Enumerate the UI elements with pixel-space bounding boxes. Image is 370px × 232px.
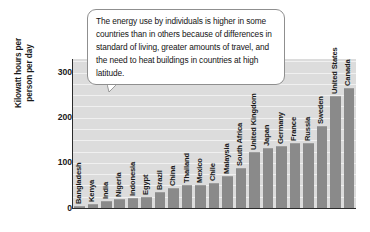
bar-slot: United States: [329, 59, 342, 208]
bar-category-label: Sweden: [317, 96, 325, 124]
x-axis-line: [72, 208, 356, 209]
bar-category-label: Egypt: [142, 174, 150, 194]
bar-slot: France: [289, 59, 302, 208]
bar: [114, 199, 125, 208]
bar: [128, 198, 139, 208]
bar-category-label: Mexico: [196, 158, 204, 183]
bar: [141, 197, 152, 208]
bar-category-label: Thailand: [182, 153, 190, 183]
callout-text: The energy use by individuals is higher …: [96, 15, 277, 80]
bar-category-label: Brazil: [155, 170, 163, 190]
bar-category-label: South Africa: [236, 123, 244, 166]
y-axis-ticks: 0100200300: [44, 55, 72, 215]
bar-category-label: India: [102, 182, 110, 199]
bar: [317, 126, 328, 208]
bar-slot: Canada: [343, 59, 356, 208]
bar: [249, 152, 260, 208]
bar: [290, 143, 301, 208]
bar-category-label: Chile: [209, 163, 217, 181]
bar: [276, 146, 287, 208]
bar: [222, 176, 233, 209]
y-axis-tick-label: 0: [44, 204, 72, 213]
bar-category-label: China: [169, 165, 177, 185]
y-axis-tick-label: 300: [44, 68, 72, 77]
bar-category-label: Nigeria: [115, 172, 123, 197]
bar: [74, 206, 85, 208]
bar: [101, 201, 112, 208]
bar: [168, 188, 179, 208]
energy-use-bar-chart: Kilowatt hours per person per day 010020…: [0, 0, 370, 232]
bar: [209, 183, 220, 208]
bar-category-label: Malaysia: [223, 143, 231, 173]
bar-category-label: Kenya: [88, 180, 96, 202]
bar-slot: Russia: [302, 59, 315, 208]
bar: [155, 192, 166, 208]
bar: [182, 185, 193, 208]
bar-slot: Sweden: [316, 59, 329, 208]
bar-slot: Bangladesh: [73, 59, 86, 208]
bar-category-label: France: [290, 117, 298, 141]
bar-category-label: United States: [331, 47, 339, 94]
y-axis-tick-label: 100: [44, 158, 72, 167]
bar: [344, 88, 355, 208]
bar: [195, 185, 206, 208]
bar-category-label: Canada: [344, 60, 352, 87]
bar-category-label: Indonesia: [129, 162, 137, 196]
bar-category-label: United Kingdom: [250, 93, 258, 150]
bar: [236, 168, 247, 208]
bar: [330, 96, 341, 208]
bar-category-label: Russia: [304, 117, 312, 141]
bar-category-label: Bangladesh: [75, 162, 83, 204]
bar: [263, 148, 274, 208]
bar: [303, 143, 314, 208]
bar-category-label: Japan: [263, 125, 271, 146]
callout-box: The energy use by individuals is higher …: [87, 9, 285, 85]
bar: [88, 204, 99, 208]
bar-category-label: Germany: [277, 112, 285, 144]
callout-tail-icon: [107, 84, 117, 92]
y-axis-tick-label: 200: [44, 113, 72, 122]
